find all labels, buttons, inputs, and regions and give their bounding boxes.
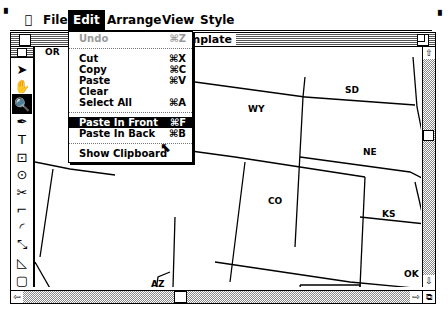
state-label-wy[interactable]: WY [248, 104, 264, 114]
menu-item-label: Copy [79, 64, 107, 75]
toolbox-close-box[interactable] [17, 48, 27, 57]
close-box[interactable] [19, 34, 31, 46]
mouse-cursor-icon: ⬉ [160, 140, 171, 155]
menu-item-paste[interactable]: Paste⌘V [69, 75, 192, 86]
menu-separator [69, 108, 192, 117]
state-label-ok[interactable]: OK [404, 269, 419, 279]
resize-box-icon[interactable]: ⧉ [422, 290, 435, 303]
scroll-up-arrow-icon[interactable]: ⇧ [423, 47, 435, 59]
menu-item-label: Paste [79, 75, 110, 86]
horizontal-scroll-thumb[interactable] [174, 291, 187, 303]
map-border-idaho-wy [35, 162, 115, 257]
menu-item-shortcut: ⌘X [169, 53, 186, 64]
vertical-scroll-thumb[interactable] [423, 130, 434, 141]
menu-item-shortcut: ⌘F [170, 117, 186, 128]
state-label-az[interactable]: AZ [151, 279, 165, 287]
menu-item-label: Select All [79, 97, 132, 108]
state-label-sd[interactable]: SD [345, 85, 359, 95]
menu-style[interactable]: Style [195, 10, 239, 30]
menu-item-undo[interactable]: Undo⌘Z [69, 33, 192, 44]
toolbox: ➤✋🔍✒T⊡⊙✂⌐◜⤡◺▢ [11, 47, 35, 287]
state-label-ne[interactable]: NE [363, 147, 377, 157]
menu-item-paste-in-back[interactable]: Paste In Back⌘B [69, 128, 192, 139]
map-border-co-south [215, 262, 421, 287]
menu-item-cut[interactable]: Cut⌘X [69, 53, 192, 64]
menu-item-paste-in-front[interactable]: Paste In Front⌘F [69, 117, 192, 128]
map-border-ne-east [415, 182, 421, 247]
menu-item-shortcut: ⌘B [169, 128, 186, 139]
map-border-sd-east [413, 57, 421, 187]
menu-separator [69, 44, 192, 53]
menu-item-select-all[interactable]: Select All⌘A [69, 97, 192, 108]
rect-tool-icon[interactable]: ▢ [12, 270, 32, 290]
map-border-ok [300, 285, 360, 287]
menu-item-shortcut: ⌘C [169, 64, 186, 75]
menu-view[interactable]: View [157, 10, 199, 30]
state-label-or[interactable]: OR [45, 47, 60, 57]
menu-item-shortcut: ⌘V [169, 75, 186, 86]
edit-menu: Undo⌘ZCut⌘XCopy⌘CPaste⌘VClearSelect All⌘… [68, 31, 193, 163]
menubar:  File Edit Arrange View Style [0, 10, 430, 30]
map-border-sd-north [305, 97, 415, 105]
menu-item-label: Show Clipboard [79, 148, 167, 159]
scroll-down-arrow-icon[interactable]: ⇩ [423, 275, 435, 287]
menu-item-clear[interactable]: Clear [69, 86, 192, 97]
apple-menu-icon[interactable]:  [20, 10, 37, 30]
menu-edit[interactable]: Edit [68, 10, 105, 30]
menu-item-shortcut: ⌘Z [169, 33, 186, 44]
state-label-ks[interactable]: KS [382, 209, 395, 219]
map-border-az [155, 217, 175, 287]
screen-corner-mark: ▝ [434, 10, 442, 21]
menu-item-label: Paste In Front [79, 117, 158, 128]
state-label-co[interactable]: CO [268, 196, 282, 206]
menu-item-show-clipboard[interactable]: Show Clipboard [69, 148, 192, 159]
map-border-co-east [360, 177, 365, 287]
vertical-scrollbar[interactable]: ⇧ ⇩ [422, 47, 435, 287]
menu-item-label: Clear [79, 86, 108, 97]
menu-item-label: Cut [79, 53, 98, 64]
menu-separator [69, 139, 192, 148]
scroll-left-arrow-icon[interactable]: ⇦ [11, 291, 23, 303]
scroll-right-arrow-icon[interactable]: ⇨ [410, 291, 422, 303]
menu-item-label: Paste In Back [79, 128, 155, 139]
horizontal-scrollbar[interactable]: ⇦ ⇨ [11, 290, 435, 303]
toolbox-header[interactable] [11, 47, 33, 58]
map-border-or-nv [35, 262, 75, 287]
menu-item-shortcut: ⌘A [169, 97, 186, 108]
map-border-wy-sd [295, 77, 305, 247]
map-border-wy-north [195, 82, 305, 97]
menu-item-label: Undo [79, 33, 108, 44]
menu-item-copy[interactable]: Copy⌘C [69, 64, 192, 75]
zoom-box[interactable] [417, 34, 429, 46]
